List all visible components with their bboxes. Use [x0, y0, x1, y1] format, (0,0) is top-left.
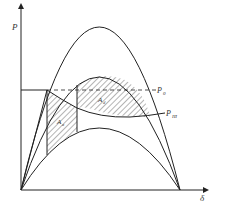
pm-label-sub: III — [171, 114, 177, 119]
x-axis-label: δ — [200, 193, 205, 203]
p0-label-sub: 0 — [163, 91, 166, 96]
power-angle-diagram: P δ P 0 P III A d A a — [0, 0, 231, 211]
area-upper-hatch — [77, 76, 150, 117]
origin-line — [21, 90, 47, 190]
pm-label: P — [165, 109, 171, 118]
curve-fault — [21, 128, 180, 190]
p0-label: P — [156, 86, 162, 95]
y-axis-label: P — [11, 22, 18, 32]
